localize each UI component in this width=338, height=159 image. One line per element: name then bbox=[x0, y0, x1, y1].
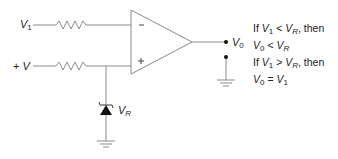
zener-vr-label: VR bbox=[118, 104, 131, 120]
ground-terminal-dot bbox=[224, 55, 228, 59]
output-terminal-dot bbox=[224, 40, 228, 44]
condition-line-1: If V1 < VR, then bbox=[253, 22, 324, 38]
condition-line-3: If V1 > VR, then bbox=[253, 56, 324, 72]
zener-ground-icon bbox=[97, 141, 115, 147]
output-ground-icon bbox=[217, 80, 235, 86]
output-v0-label: V0 bbox=[232, 36, 244, 52]
vplus-input-label: + V bbox=[13, 60, 30, 72]
opamp-noninverting-sign bbox=[138, 58, 144, 64]
opamp-triangle bbox=[131, 10, 192, 74]
v1-resistor bbox=[56, 21, 86, 29]
v1-input-label: V1 bbox=[20, 18, 32, 34]
condition-line-2: V0 < VR bbox=[253, 39, 289, 55]
condition-line-4: V0 = V1 bbox=[253, 73, 288, 89]
vplus-resistor bbox=[56, 62, 86, 70]
